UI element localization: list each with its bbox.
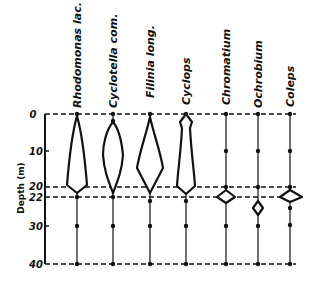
depth-distribution-diagram: 0 10 20 22 30 40 Depth (m) Rhodomonas la… <box>0 0 320 282</box>
shape-cyclotella <box>103 122 123 193</box>
shape-ochrobium <box>253 201 263 215</box>
tick-20: 20 <box>29 181 43 192</box>
species-label-cyclotella: Cyclotella com. <box>107 14 120 108</box>
tick-40: 40 <box>28 259 43 270</box>
species-label-chromatium: Chromatium <box>220 29 233 105</box>
species-label-ochrobium: Ochrobium <box>252 40 265 108</box>
species-label-rhodomonas: Rhodomonas lac. <box>71 2 84 108</box>
y-axis-label: Depth (m) <box>16 162 26 213</box>
tick-30: 30 <box>29 221 43 232</box>
species-label-coleps: Coleps <box>284 65 297 107</box>
tick-0: 0 <box>30 109 37 120</box>
shape-chromatium <box>217 190 235 203</box>
tick-22: 22 <box>29 192 43 203</box>
tick-10: 10 <box>29 146 43 157</box>
shape-filinia <box>137 117 163 193</box>
shape-coleps <box>280 190 302 202</box>
species-label-cyclops: Cyclops <box>180 57 193 105</box>
species-label-filinia: Filinia long. <box>144 25 157 98</box>
shape-cyclops <box>177 114 195 194</box>
shape-rhodomonas <box>67 116 87 193</box>
